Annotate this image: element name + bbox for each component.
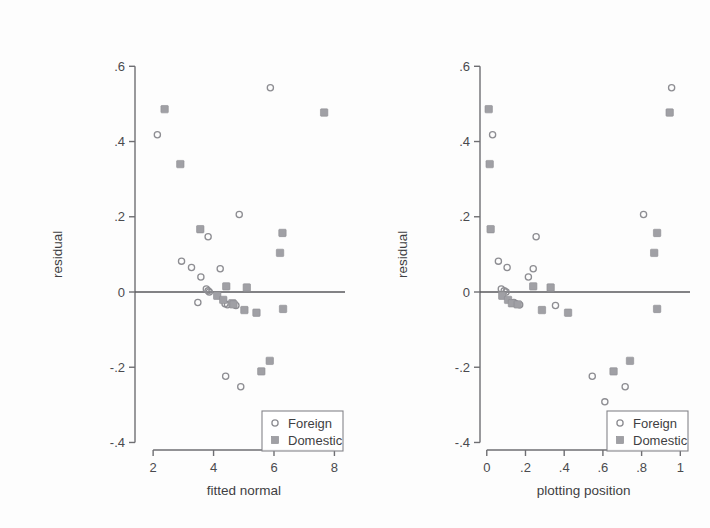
- data-point-foreign: [504, 264, 510, 270]
- data-point-domestic: [538, 306, 545, 313]
- data-point-foreign: [589, 373, 595, 379]
- data-point-domestic: [161, 105, 168, 112]
- data-point-domestic: [530, 283, 537, 290]
- data-point-domestic: [650, 249, 657, 256]
- plot-svg-right: .6.4.20-.2-.4residual0.2.4.6.81plotting …: [345, 0, 710, 528]
- data-point-foreign: [669, 85, 675, 91]
- data-point-foreign: [489, 132, 495, 138]
- data-point-domestic: [276, 249, 283, 256]
- data-point-domestic: [666, 109, 673, 116]
- data-point-domestic: [177, 160, 184, 167]
- data-point-domestic: [230, 301, 237, 308]
- data-point-domestic: [258, 368, 265, 375]
- y-tick-label: -.2: [455, 360, 470, 375]
- x-tick-label: 8: [331, 460, 338, 475]
- figure-root: .6.4.20-.2-.4residual2468fitted normalFo…: [0, 0, 710, 528]
- data-point-domestic: [320, 109, 327, 116]
- plot-svg-left: .6.4.20-.2-.4residual2468fitted normalFo…: [0, 0, 365, 528]
- legend-label-domestic: Domestic: [633, 433, 688, 448]
- x-tick-label: 4: [210, 460, 217, 475]
- data-point-foreign: [238, 384, 244, 390]
- series-domestic: [161, 105, 328, 375]
- data-point-foreign: [236, 211, 242, 217]
- data-point-foreign: [223, 373, 229, 379]
- legend-label-domestic: Domestic: [288, 433, 343, 448]
- y-tick-label: 0: [118, 285, 125, 300]
- y-axis-title: residual: [395, 231, 410, 278]
- data-point-foreign: [205, 234, 211, 240]
- series-foreign: [154, 85, 273, 390]
- data-point-domestic: [223, 283, 230, 290]
- series-domestic: [485, 105, 673, 375]
- y-tick-label: .2: [459, 209, 470, 224]
- data-point-domestic: [564, 309, 571, 316]
- data-point-domestic: [220, 296, 227, 303]
- data-point-domestic: [486, 160, 493, 167]
- x-tick-label: 6: [270, 460, 277, 475]
- x-tick-label: .8: [636, 460, 647, 475]
- data-point-domestic: [487, 225, 494, 232]
- data-point-foreign: [178, 258, 184, 264]
- legend-marker-filled-square-icon: [616, 436, 623, 443]
- x-tick-label: 0: [483, 460, 490, 475]
- data-point-domestic: [279, 229, 286, 236]
- y-tick-label: .6: [114, 59, 125, 74]
- data-point-domestic: [610, 368, 617, 375]
- y-axis-title: residual: [50, 231, 65, 278]
- legend-label-foreign: Foreign: [288, 416, 332, 431]
- data-point-domestic: [241, 306, 248, 313]
- y-tick-label: -.4: [455, 435, 470, 450]
- data-point-domestic: [197, 225, 204, 232]
- y-tick-label: -.2: [110, 360, 125, 375]
- data-point-foreign: [533, 234, 539, 240]
- y-tick-label: .4: [114, 134, 125, 149]
- series-foreign: [489, 85, 674, 405]
- data-point-domestic: [653, 305, 660, 312]
- data-point-foreign: [267, 85, 273, 91]
- y-tick-label: .6: [459, 59, 470, 74]
- data-point-foreign: [552, 302, 558, 308]
- y-tick-label: -.4: [110, 435, 125, 450]
- y-tick-label: 0: [463, 285, 470, 300]
- data-point-foreign: [640, 211, 646, 217]
- x-tick-label: 1: [677, 460, 684, 475]
- legend[interactable]: ForeignDomestic: [262, 411, 343, 451]
- legend-label-foreign: Foreign: [633, 416, 677, 431]
- data-point-foreign: [195, 299, 201, 305]
- data-point-foreign: [217, 266, 223, 272]
- data-point-foreign: [530, 266, 536, 272]
- y-tick-label: .2: [114, 209, 125, 224]
- y-tick-label: .4: [459, 134, 470, 149]
- data-point-domestic: [626, 357, 633, 364]
- data-point-foreign: [495, 258, 501, 264]
- x-tick-label: .6: [597, 460, 608, 475]
- data-point-foreign: [622, 384, 628, 390]
- data-point-domestic: [266, 357, 273, 364]
- data-point-foreign: [154, 132, 160, 138]
- data-point-domestic: [653, 229, 660, 236]
- data-point-foreign: [198, 274, 204, 280]
- x-tick-label: 2: [150, 460, 157, 475]
- data-point-domestic: [485, 105, 492, 112]
- legend[interactable]: ForeignDomestic: [607, 411, 688, 451]
- x-axis-title: fitted normal: [207, 483, 281, 498]
- data-point-domestic: [279, 305, 286, 312]
- data-point-domestic: [243, 284, 250, 291]
- data-point-domestic: [514, 301, 521, 308]
- data-point-foreign: [188, 264, 194, 270]
- scatter-panel-left: .6.4.20-.2-.4residual2468fitted normalFo…: [0, 0, 365, 528]
- data-point-domestic: [253, 309, 260, 316]
- data-point-foreign: [602, 399, 608, 405]
- legend-marker-filled-square-icon: [271, 436, 278, 443]
- x-tick-label: .4: [559, 460, 570, 475]
- x-tick-label: .2: [520, 460, 531, 475]
- x-axis-title: plotting position: [537, 483, 631, 498]
- scatter-panel-right: .6.4.20-.2-.4residual0.2.4.6.81plotting …: [345, 0, 710, 528]
- data-point-domestic: [547, 284, 554, 291]
- data-point-foreign: [525, 274, 531, 280]
